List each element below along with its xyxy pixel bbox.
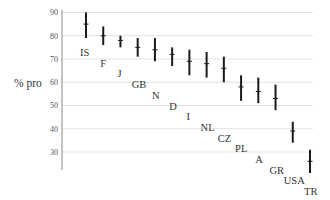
y-axis-label: % pro <box>14 77 42 90</box>
interval-usa <box>290 122 295 143</box>
interval-cz <box>221 57 226 83</box>
y-tick-label: 40 <box>50 125 58 134</box>
interval-j <box>118 36 123 48</box>
category-label-pl: PL <box>235 143 247 154</box>
category-label-nl: NL <box>201 122 215 133</box>
category-label-usa: USA <box>284 175 305 186</box>
interval-gb <box>135 38 140 57</box>
category-label-is: IS <box>80 47 89 58</box>
interval-d <box>170 47 175 66</box>
category-label-gb: GB <box>132 79 147 90</box>
y-tick-label: 60 <box>50 78 58 87</box>
category-labels: ISFJGBNDINLCZPLAGRUSATR <box>80 47 317 197</box>
category-label-tr: TR <box>304 186 317 197</box>
y-tick-label: 70 <box>50 55 58 64</box>
y-tick-labels: 30405060708090 <box>50 8 58 157</box>
y-tick-label: 30 <box>50 148 58 157</box>
category-label-f: F <box>100 58 106 69</box>
category-label-d: D <box>169 101 177 112</box>
interval-nl <box>204 52 209 78</box>
interval-pl <box>239 75 244 101</box>
y-tick-label: 50 <box>50 101 58 110</box>
category-label-n: N <box>152 90 160 101</box>
interval-i <box>187 50 192 76</box>
interval-tr <box>308 150 313 173</box>
interval-f <box>101 26 106 45</box>
category-label-j: J <box>117 68 121 79</box>
gridlines <box>62 13 313 153</box>
interval-is <box>84 13 89 39</box>
category-label-cz: CZ <box>218 133 231 144</box>
interval-n <box>152 38 157 61</box>
interval-chart: 30405060708090 % pro ISFJGBNDINLCZPLAGRU… <box>0 0 330 200</box>
category-label-i: I <box>186 111 190 122</box>
category-label-a: A <box>255 154 263 165</box>
interval-gr <box>273 85 278 111</box>
y-tick-label: 90 <box>50 8 58 17</box>
category-label-gr: GR <box>270 165 285 176</box>
interval-bars <box>84 13 313 173</box>
interval-a <box>256 78 261 104</box>
y-tick-label: 80 <box>50 32 58 41</box>
